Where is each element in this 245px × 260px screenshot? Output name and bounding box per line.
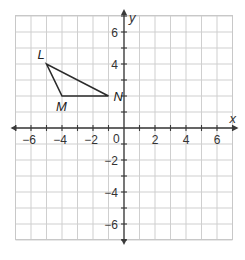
y-axis-arrow-up-icon xyxy=(121,9,127,15)
x-tick-label: 6 xyxy=(214,133,221,147)
y-tick-label: 6 xyxy=(111,26,118,40)
y-axis-label: y xyxy=(128,10,137,25)
axes xyxy=(11,9,239,245)
x-tick-label: −6 xyxy=(22,133,36,147)
vertex-label-M: M xyxy=(56,99,67,114)
coordinate-plane: −6−4−224664−2−4−6 LMN x y 0 xyxy=(0,0,245,260)
y-tick-label: −2 xyxy=(104,154,118,168)
vertex-label-N: N xyxy=(114,89,124,104)
x-tick-label: −2 xyxy=(84,133,98,147)
x-tick-label: −4 xyxy=(53,133,67,147)
y-tick-label: −4 xyxy=(104,186,118,200)
x-axis-label: x xyxy=(229,111,237,126)
y-tick-label: 4 xyxy=(111,58,118,72)
origin-label: 0 xyxy=(113,132,120,146)
vertex-label-L: L xyxy=(38,47,45,62)
x-tick-label: 4 xyxy=(183,133,190,147)
x-tick-label: 2 xyxy=(152,133,159,147)
y-tick-label: −6 xyxy=(104,218,118,232)
